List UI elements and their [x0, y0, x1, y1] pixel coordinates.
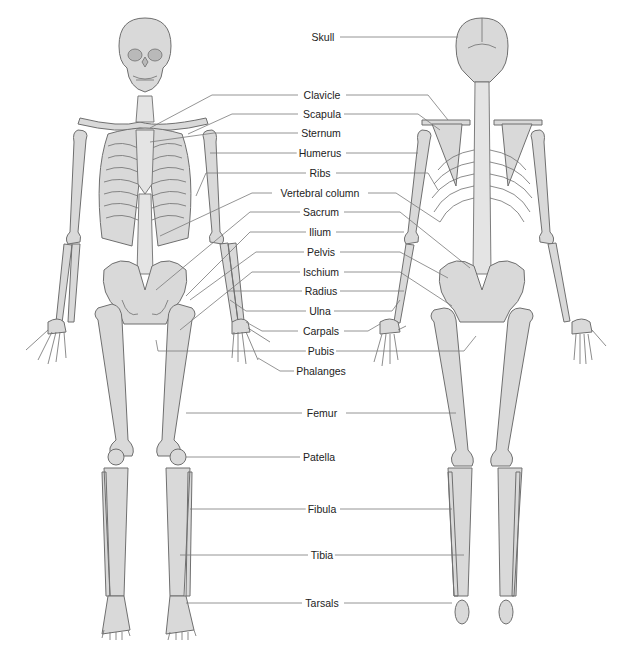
label-scapula: Scapula: [301, 108, 343, 120]
anterior-humerus-right: [203, 130, 224, 244]
anterior-feet: [102, 596, 196, 640]
posterior-femur-left: [431, 308, 473, 466]
label-ribs: Ribs: [307, 167, 332, 179]
anterior-sternum: [136, 130, 154, 194]
label-carpals: Carpals: [301, 325, 341, 337]
posterior-humerus-right: [531, 130, 554, 244]
posterior-skeleton: [374, 18, 606, 624]
posterior-femur-right: [491, 308, 533, 466]
posterior-skull: [456, 18, 508, 82]
anterior-skull: [119, 18, 171, 92]
label-radius: Radius: [303, 285, 340, 297]
label-sacrum: Sacrum: [301, 206, 341, 218]
label-tarsals: Tarsals: [303, 597, 340, 609]
label-pelvis: Pelvis: [305, 246, 337, 258]
anterior-hand-left: [26, 319, 66, 364]
anterior-patella-right: [170, 449, 186, 465]
label-patella: Patella: [301, 451, 337, 463]
posterior-forearm-left: [394, 244, 414, 323]
anterior-skeleton: [26, 18, 270, 640]
posterior-heel-right: [499, 600, 513, 624]
label-skull: Skull: [310, 31, 337, 43]
posterior-heel-left: [455, 600, 469, 624]
anterior-femur-right: [157, 304, 195, 456]
label-pubis: Pubis: [306, 345, 336, 357]
anterior-leg-right: [166, 468, 192, 596]
label-humerus: Humerus: [297, 147, 344, 159]
label-tibia: Tibia: [309, 549, 335, 561]
anterior-forearm-left: [56, 244, 80, 323]
posterior-hand-right: [572, 319, 606, 364]
anterior-vertebral-column: [137, 194, 153, 274]
anterior-forearm-right: [220, 243, 244, 322]
label-phalanges: Phalanges: [294, 365, 348, 377]
anterior-humerus-left: [66, 130, 87, 244]
posterior-vertebral-column: [473, 82, 491, 274]
label-ulna: Ulna: [307, 305, 333, 317]
label-sternum: Sternum: [299, 127, 343, 139]
anterior-patella-left: [108, 449, 124, 465]
label-ilium: Ilium: [307, 226, 333, 238]
label-vertebral-column: Vertebral column: [279, 187, 362, 199]
anterior-neck: [136, 96, 154, 122]
label-clavicle: Clavicle: [302, 89, 343, 101]
posterior-forearm-right: [548, 243, 570, 322]
label-ischium: Ischium: [301, 266, 341, 278]
label-femur: Femur: [305, 407, 339, 419]
posterior-humerus-left: [404, 130, 431, 244]
posterior-leg-right: [498, 468, 522, 596]
posterior-leg-left: [448, 468, 472, 596]
label-fibula: Fibula: [306, 503, 339, 515]
anterior-leg-left: [102, 468, 128, 596]
anterior-femur-left: [95, 304, 133, 456]
posterior-hand-left: [374, 319, 406, 366]
anterior-hand-right: [232, 319, 270, 364]
